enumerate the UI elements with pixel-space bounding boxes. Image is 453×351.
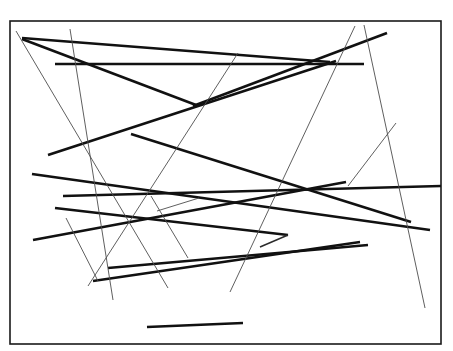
border-frame	[10, 21, 441, 344]
line-segment-seg-16	[88, 53, 238, 286]
line-segment-seg-21	[151, 196, 188, 258]
line-segment-seg-05	[48, 61, 336, 155]
line-segment-seg-15	[70, 29, 113, 300]
line-segment-seg-01	[22, 38, 330, 62]
line-segment-seg-20	[157, 198, 199, 211]
line-segment-seg-11	[108, 245, 368, 268]
figure-canvas	[0, 0, 453, 351]
line-arrangement-svg	[0, 0, 453, 351]
line-segment-seg-22	[260, 235, 288, 247]
segment-group	[16, 25, 441, 327]
line-segment-seg-18	[364, 25, 425, 308]
line-segment-seg-14	[16, 31, 168, 288]
line-segment-seg-23	[66, 218, 98, 281]
line-segment-seg-19	[348, 123, 396, 186]
line-segment-seg-12	[93, 242, 360, 281]
line-segment-seg-04	[193, 33, 387, 106]
line-segment-seg-13	[147, 323, 243, 327]
